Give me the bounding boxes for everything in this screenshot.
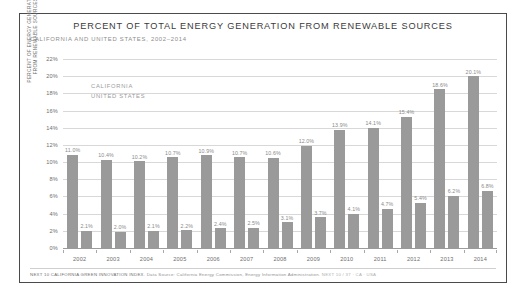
bar-value-label: 3.7% [314,210,326,216]
bar-value-label: 4.7% [381,201,393,207]
x-axis-tick-label: 2012 [397,256,430,262]
bar-value-label: 10.4% [98,152,114,158]
plot-area: CALIFORNIA UNITED STATES 0%2%4%6%8%10%12… [63,60,497,249]
x-axis-tick-label: 2006 [197,256,230,262]
bar-california: 15.4% [401,117,412,249]
bar-value-label: 10.2% [132,154,148,160]
bar-value-label: 3.1% [281,215,293,221]
bar-california: 20.1% [468,76,479,249]
bar-united-states: 3.7% [315,217,326,249]
y-axis-tick-label: 4% [50,211,59,217]
chart-page: PERCENT OF TOTAL ENERGY GENERATION FROM … [0,0,526,299]
x-axis-tick: 2006 [197,250,230,266]
x-axis-tick: 2014 [464,250,497,266]
bar-california: 12.0% [301,146,312,249]
x-axis-tick: 2002 [63,250,96,266]
x-axis-tick-mark [130,250,131,253]
bar-value-label: 18.6% [432,82,448,88]
figure-frame: PERCENT OF TOTAL ENERGY GENERATION FROM … [19,13,507,283]
x-axis-tick: 2009 [297,250,330,266]
x-axis-tick-mark [163,250,164,253]
y-axis-label: PERCENT OF ENERGY GENERATION FROM RENEWA… [27,0,39,92]
bar-group: 10.9%2.4% [197,60,230,249]
y-axis-tick-label: 20% [46,73,58,79]
x-axis-tick-label: 2004 [130,256,163,262]
x-axis-tick-label: 2002 [63,256,96,262]
x-axis-tick: 2010 [330,250,363,266]
bar-united-states: 2.4% [215,228,226,249]
x-axis: 2002200320042005200620072008200920102011… [63,250,497,266]
bar-value-label: 6.2% [448,188,460,194]
y-axis-tick-label: 16% [46,108,58,114]
bar-united-states: 2.2% [181,230,192,249]
x-axis-tick-label: 2009 [297,256,330,262]
figure-inner: PERCENT OF TOTAL ENERGY GENERATION FROM … [20,14,506,282]
bar-value-label: 2.2% [181,223,193,229]
bar-value-label: 13.9% [332,122,348,128]
bar-group: 10.2%2.1% [130,60,163,249]
bar-group: 10.4%2.0% [96,60,129,249]
bar-group: 12.0%3.7% [297,60,330,249]
bar-united-states: 2.1% [81,231,92,249]
bar-united-states: 2.0% [115,232,126,249]
y-axis-tick-label: 22% [46,56,58,62]
bar-group: 10.6%3.1% [263,60,296,249]
x-axis-tick-label: 2007 [230,256,263,262]
y-axis-tick-label: 10% [46,159,58,165]
y-axis-tick-label: 0% [50,245,59,251]
bar-united-states: 6.2% [448,196,459,249]
x-axis-tick-label: 2005 [163,256,196,262]
y-axis-tick-label: 14% [46,125,58,131]
bar-value-label: 11.0% [65,147,80,153]
bar-united-states: 2.1% [148,231,159,249]
bar-california: 18.6% [434,89,445,249]
x-axis-tick-label: 2003 [96,256,129,262]
bar-group: 13.9%4.1% [330,60,363,249]
bar-group: 18.6%6.2% [430,60,463,249]
footer-publication: NEXT 10 CALIFORNIA GREEN INNOVATION INDE… [30,272,145,277]
footer-source: Data Source: California Energy Commissio… [147,272,321,277]
bar-california: 10.6% [268,158,279,249]
x-axis-tick: 2005 [163,250,196,266]
x-axis-tick-mark [430,250,431,253]
x-axis-tick: 2007 [230,250,263,266]
bar-group: 14.1%4.7% [364,60,397,249]
bar-california: 13.9% [334,130,345,249]
x-axis-tick: 2008 [263,250,296,266]
bar-value-label: 2.1% [80,223,92,229]
bar-united-states: 5.4% [415,203,426,249]
chart-title: PERCENT OF TOTAL ENERGY GENERATION FROM … [20,21,506,31]
footer-page-ref: NEXT 10 / 37 · CA · USA [322,272,376,277]
x-axis-tick-label: 2013 [430,256,463,262]
x-axis-tick: 2012 [397,250,430,266]
bar-value-label: 2.0% [114,224,126,230]
bar-value-label: 4.1% [348,206,360,212]
x-axis-tick-mark [464,250,465,253]
bar-united-states: 3.1% [282,222,293,249]
bar-group: 15.4%5.4% [397,60,430,249]
bar-value-label: 2.5% [247,220,259,226]
bar-value-label: 14.1% [365,120,381,126]
bar-united-states: 4.1% [348,214,359,249]
x-axis-tick: 2013 [430,250,463,266]
bar-value-label: 10.6% [265,150,281,156]
chart-subtitle: CALIFORNIA AND UNITED STATES, 2002–2014 [30,36,187,42]
bar-group: 10.7%2.5% [230,60,263,249]
bar-value-label: 6.8% [481,183,493,189]
x-axis-tick: 2011 [364,250,397,266]
y-axis-tick-label: 18% [46,90,58,96]
bar-value-label: 10.9% [198,148,214,154]
bar-value-label: 10.7% [165,150,181,156]
bar-united-states: 6.8% [482,191,493,249]
x-axis-tick-label: 2008 [263,256,296,262]
bar-group: 20.1%6.8% [464,60,497,249]
x-axis-tick-mark [96,250,97,253]
bar-value-label: 15.4% [399,109,415,115]
x-axis-tick-mark [364,250,365,253]
x-axis-tick-mark [330,250,331,253]
y-axis-tick-label: 12% [46,142,58,148]
bar-california: 10.9% [201,155,212,249]
bar-value-label: 2.1% [147,223,159,229]
chart-footer: NEXT 10 CALIFORNIA GREEN INNOVATION INDE… [30,272,496,277]
bar-california: 10.4% [101,160,112,249]
